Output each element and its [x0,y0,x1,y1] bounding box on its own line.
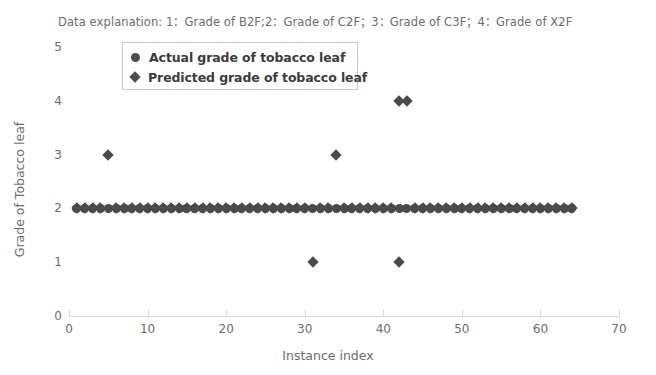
x-tick-label: 70 [604,322,634,336]
data-point-predicted [385,203,396,214]
y-tick-label: 5 [42,40,62,54]
x-tick-mark [69,310,70,316]
x-tick-mark [148,310,149,316]
x-tick-label: 0 [54,322,84,336]
chart-figure: Data explanation: 1：Grade of B2F;2：Grade… [0,0,656,375]
x-tick-label: 30 [290,322,320,336]
legend-entry-actual: Actual grade of tobacco leaf [131,47,345,67]
y-tick-label: 0 [42,309,62,323]
x-tick-mark [305,310,306,316]
y-axis-title: Grade of Tobacco leaf [12,105,27,275]
legend-entry-predicted: Predicted grade of tobacco leaf [131,67,367,87]
y-tick-label: 3 [42,148,62,162]
x-tick-mark [226,310,227,316]
x-tick-mark [462,310,463,316]
y-tick-label: 2 [42,201,62,215]
x-tick-mark [540,310,541,316]
x-tick-label: 50 [447,322,477,336]
chart-legend: Actual grade of tobacco leaf Predicted g… [122,42,358,90]
data-point-predicted [103,149,114,160]
x-tick-label: 60 [525,322,555,336]
x-axis-title: Instance index [0,348,656,363]
y-tick-label: 1 [42,255,62,269]
y-tick-label: 4 [42,94,62,108]
x-axis-line [69,316,620,317]
circle-icon [131,53,140,62]
legend-label-actual: Actual grade of tobacco leaf [149,50,345,65]
data-point-predicted [307,257,318,268]
x-tick-label: 40 [368,322,398,336]
legend-label-predicted: Predicted grade of tobacco leaf [148,70,367,85]
data-point-predicted [393,95,404,106]
x-tick-label: 10 [133,322,163,336]
x-tick-mark [619,310,620,316]
data-point-predicted [393,257,404,268]
data-point-predicted [330,149,341,160]
diamond-icon [129,71,140,82]
x-tick-mark [383,310,384,316]
x-tick-label: 20 [211,322,241,336]
